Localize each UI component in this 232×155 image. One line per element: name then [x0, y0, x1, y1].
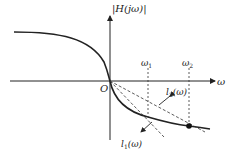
- frequency-response-diagram: |H(jω)| ω O ω1 ω2 l2(ω) l1(ω): [0, 0, 232, 155]
- y-axis-label: |H(jω)|: [112, 3, 147, 15]
- diagram-canvas: |H(jω)| ω O ω1 ω2 l2(ω) l1(ω): [0, 0, 232, 155]
- tangent-line-l1: [110, 81, 164, 137]
- intersection-point: [186, 123, 192, 129]
- x-axis-label: ω: [217, 76, 225, 87]
- omega2-label: ω2: [182, 58, 193, 69]
- l1-pointer-arrow: [141, 122, 152, 132]
- omega1-label: ω1: [141, 58, 152, 69]
- origin-label: O: [100, 83, 108, 94]
- l1-label: l1(ω): [121, 139, 143, 150]
- l2-label: l2(ω): [166, 87, 188, 98]
